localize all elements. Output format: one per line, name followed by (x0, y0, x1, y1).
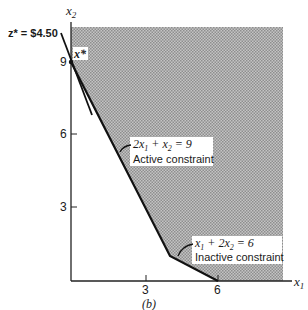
x-tick-label-6: 6 (214, 283, 221, 297)
y-tick-label-6: 6 (60, 127, 67, 141)
objective-label: z* = $4.50 (8, 27, 58, 39)
x2-axis-label: x2 (65, 3, 77, 20)
y-tick-label-3: 3 (60, 200, 67, 214)
optimum-point (69, 60, 73, 64)
x-tick-label-3: 3 (142, 283, 149, 297)
active-constraint-equation: 2x1 + x2 = 9 (133, 137, 192, 153)
lp-diagram: 3 6 9 3 6 x2 x1 z* = $4.50 x* 2x1 + x2 =… (0, 0, 308, 310)
active-constraint-status: Active constraint (133, 153, 214, 165)
x1-axis-label: x1 (293, 274, 304, 291)
y-tick-label-9: 9 (60, 55, 67, 69)
inactive-constraint-status: Inactive constraint (195, 251, 284, 263)
optimum-label: x* (73, 47, 87, 61)
figure-caption: (b) (142, 297, 156, 310)
